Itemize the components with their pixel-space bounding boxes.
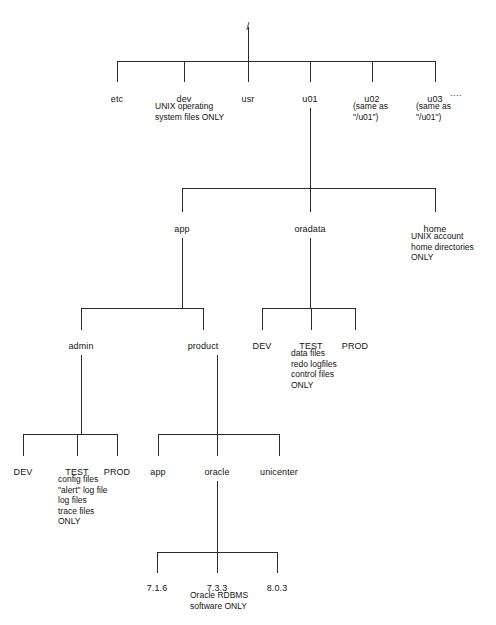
annotation-u02-note: (same as "/u01"): [353, 101, 388, 122]
tree-node-v716[interactable]: 7.1.6: [147, 583, 168, 593]
annotation-admin-note: config files "alert" log file log files …: [58, 474, 108, 527]
tree-node-prod_app[interactable]: app: [150, 467, 165, 477]
tree-node-u01[interactable]: u01: [302, 94, 317, 104]
tree-node-app[interactable]: app: [174, 224, 189, 234]
annotation-oracle-note: Oracle RDBMS software ONLY: [190, 590, 248, 611]
tree-node-usr[interactable]: usr: [242, 94, 255, 104]
continuation-u03-ellipsis: ....: [450, 88, 462, 98]
tree-node-root[interactable]: /: [247, 22, 250, 32]
tree-node-adm_prod[interactable]: PROD: [104, 467, 130, 477]
tree-node-ora_prod[interactable]: PROD: [342, 341, 368, 351]
tree-node-admin[interactable]: admin: [68, 341, 93, 351]
tree-node-product[interactable]: product: [188, 341, 219, 351]
annotation-oradata-note: data files redo logfiles control files O…: [291, 348, 337, 390]
tree-node-oradata[interactable]: oradata: [294, 224, 325, 234]
tree-node-etc[interactable]: etc: [111, 94, 123, 104]
tree-node-ora_dev[interactable]: DEV: [253, 341, 272, 351]
directory-tree-diagram: /etcdevusru01u02u03apporadatahomeadminpr…: [0, 0, 496, 625]
tree-node-unicenter[interactable]: unicenter: [260, 467, 298, 477]
annotation-home-note: UNIX account home directories ONLY: [411, 231, 474, 263]
annotation-u03-note: (same as "/u01"): [416, 101, 451, 122]
tree-node-adm_dev[interactable]: DEV: [14, 467, 33, 477]
annotation-dev-note: UNIX operating system files ONLY: [155, 101, 224, 122]
tree-node-v803[interactable]: 8.0.3: [267, 583, 288, 593]
tree-node-oracle[interactable]: oracle: [204, 467, 229, 477]
